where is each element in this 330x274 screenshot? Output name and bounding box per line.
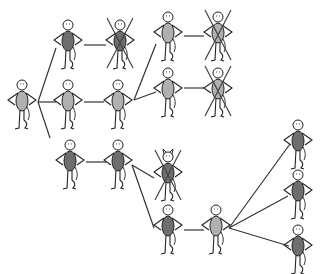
body-icon (62, 31, 74, 51)
body-icon (112, 151, 124, 171)
head-icon (163, 152, 173, 162)
head-icon (17, 80, 27, 90)
body-icon (64, 151, 76, 171)
tree-diagram (0, 0, 330, 274)
head-icon (213, 12, 223, 22)
head-icon (63, 20, 73, 30)
head-icon (65, 140, 75, 150)
head-icon (63, 80, 73, 90)
head-icon (113, 140, 123, 150)
head-icon (293, 120, 303, 130)
body-icon (292, 131, 304, 151)
head-icon (213, 68, 223, 78)
body-icon (162, 79, 174, 99)
body-icon (16, 91, 28, 111)
body-icon (112, 91, 124, 111)
head-icon (293, 225, 303, 235)
head-icon (293, 170, 303, 180)
head-icon (163, 12, 173, 22)
head-icon (115, 20, 125, 30)
body-icon (210, 216, 222, 236)
head-icon (163, 205, 173, 215)
body-icon (62, 91, 74, 111)
body-icon (162, 23, 174, 43)
head-icon (163, 68, 173, 78)
body-icon (292, 181, 304, 201)
body-icon (162, 216, 174, 236)
head-icon (211, 205, 221, 215)
head-icon (113, 80, 123, 90)
body-icon (292, 236, 304, 256)
